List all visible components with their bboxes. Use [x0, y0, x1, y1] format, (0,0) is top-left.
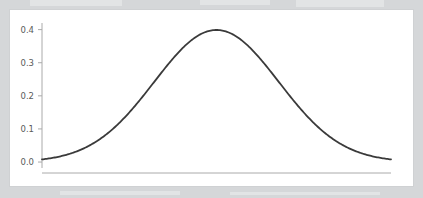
- background-band: [30, 0, 122, 6]
- plot-panel: 0.00.10.20.30.4: [9, 9, 414, 187]
- y-axis-tick-label: 0.3: [20, 58, 34, 68]
- background-band: [200, 0, 270, 5]
- figure-root: 0.00.10.20.30.4: [0, 0, 423, 198]
- y-axis-tick-label: 0.1: [20, 124, 34, 134]
- y-axis-tick-label: 0.2: [20, 91, 34, 101]
- y-axis-tick-label: 0.4: [20, 25, 34, 35]
- y-axis-tick-label: 0.0: [20, 157, 34, 167]
- background-band: [296, 0, 384, 7]
- y-axis-ticks: [38, 30, 42, 162]
- normal-distribution-curve: [42, 30, 391, 159]
- gaussian-curve-chart: 0.00.10.20.30.4: [10, 10, 413, 186]
- background-band: [60, 191, 180, 195]
- background-band: [230, 192, 380, 195]
- y-axis-tick-labels: 0.00.10.20.30.4: [20, 25, 34, 167]
